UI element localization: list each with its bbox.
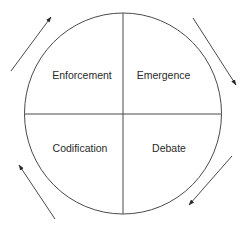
arrow-icon-bottom-right xyxy=(189,156,232,205)
arrow-icon-top-left xyxy=(11,17,51,71)
quadrant-label-codification: Codification xyxy=(53,142,108,154)
quadrant-label-enforcement: Enforcement xyxy=(52,69,112,81)
cycle-diagram: Enforcement Emergence Debate Codificatio… xyxy=(0,0,248,229)
quadrant-label-emergence: Emergence xyxy=(137,69,191,81)
quadrant-label-debate: Debate xyxy=(152,142,186,154)
arrow-icon-bottom-left xyxy=(19,165,55,219)
